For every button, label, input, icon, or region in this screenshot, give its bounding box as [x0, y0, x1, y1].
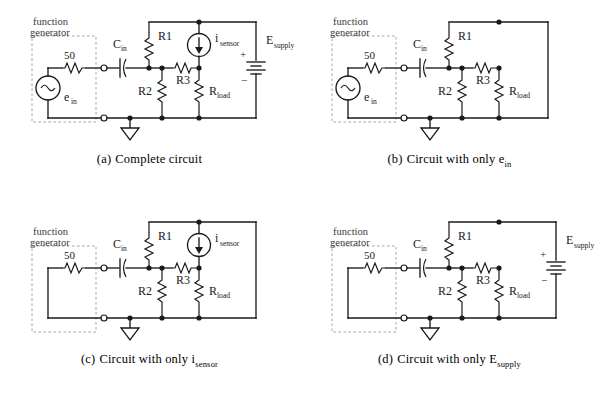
cin-label-sub: in — [421, 44, 427, 53]
r2-resistor-symbol — [458, 268, 466, 318]
r3-resistor-symbol — [472, 263, 499, 273]
panel-c-caption: (c)Circuit with only isensor — [0, 352, 299, 367]
source-resistance-50-symbol — [62, 63, 86, 73]
r1-resistor-symbol — [145, 222, 153, 268]
panel-d-caption: (d)Circuit with only Esupply — [300, 352, 599, 367]
panel-b-caption-sub: in — [505, 159, 512, 169]
isensor-label: i — [215, 231, 219, 245]
panel-c-caption-sub: sensor — [195, 359, 218, 369]
node-r2-bottom — [159, 315, 164, 320]
cin-label-sub: in — [121, 44, 127, 53]
r2-resistor-symbol — [158, 68, 166, 118]
r2-resistor-symbol — [158, 268, 166, 318]
source-resistance-50-label: 50 — [364, 49, 376, 61]
function-generator-label-line1: function — [333, 16, 369, 27]
node-r2-bottom — [459, 115, 464, 120]
isensor-label-sub: sensor — [220, 239, 240, 248]
esupply-minus-sign: − — [241, 74, 247, 86]
circuit-figure: function generator e in 50 — [0, 0, 599, 402]
isensor-label-sub: sensor — [220, 39, 240, 48]
panel-d-only-esupply: function generator 50 C in R1 — [300, 200, 599, 401]
panel-a-caption-text: Complete circuit — [115, 152, 202, 166]
cin-label: C — [413, 37, 421, 51]
fg-output-terminal-top — [401, 65, 407, 71]
r1-label: R1 — [458, 29, 472, 43]
esupply-label-sub: supply — [274, 41, 294, 50]
rload-label: R — [509, 84, 517, 98]
r2-label: R2 — [138, 284, 152, 298]
fg-output-terminal-bottom — [101, 315, 107, 321]
r3-label: R3 — [476, 73, 490, 87]
function-generator-label-line2: generator — [30, 27, 70, 38]
source-resistance-50-symbol — [362, 63, 386, 73]
rload-label-sub: load — [217, 91, 230, 100]
ground-symbol-triangle — [121, 128, 139, 140]
function-generator-label-line2: generator — [30, 237, 70, 248]
rload-resistor-symbol — [495, 268, 503, 318]
esupply-label: E — [266, 33, 273, 47]
fg-output-terminal-top — [101, 265, 107, 271]
isensor-label: i — [215, 31, 219, 45]
ground-symbol-triangle — [121, 328, 139, 340]
r3-label: R3 — [176, 73, 190, 87]
function-generator-label-line2: generator — [330, 237, 370, 248]
r1-label: R1 — [158, 229, 172, 243]
panel-d-caption-sub: supply — [497, 359, 521, 369]
fg-output-terminal-top — [101, 65, 107, 71]
cin-label: C — [413, 237, 421, 251]
panel-a-complete-circuit: function generator e in 50 — [0, 0, 299, 201]
source-resistance-50-label: 50 — [64, 249, 76, 261]
r3-label: R3 — [176, 273, 190, 287]
cin-label-sub: in — [421, 244, 427, 253]
panel-c-schematic: function generator 50 C in R1 — [0, 200, 299, 360]
ein-label-sub: in — [371, 97, 377, 106]
r1-resistor-symbol — [145, 22, 153, 68]
cin-label-sub: in — [121, 244, 127, 253]
node-rload-bottom — [496, 115, 501, 120]
source-resistance-50-label: 50 — [64, 49, 76, 61]
esupply-plus-sign: + — [240, 48, 246, 60]
r1-resistor-symbol — [445, 222, 453, 268]
r3-resistor-symbol — [172, 63, 199, 73]
rload-resistor-symbol — [195, 68, 203, 118]
esupply-plus-sign: + — [540, 248, 546, 260]
panel-b-index: (b) — [387, 152, 402, 166]
panel-a-caption: (a)Complete circuit — [0, 152, 299, 167]
function-generator-label-line2: generator — [330, 27, 370, 38]
panel-b-only-ein: function generator e in 50 C in R1 — [300, 0, 599, 201]
function-generator-label-line1: function — [33, 16, 69, 27]
panel-b-caption: (b)Circuit with only ein — [300, 152, 599, 167]
rload-label-sub: load — [217, 291, 230, 300]
node-r2-bottom — [159, 115, 164, 120]
rload-label: R — [509, 284, 517, 298]
esupply-label-sub: supply — [574, 241, 594, 250]
function-generator-label-line1: function — [333, 226, 369, 237]
ground-symbol-triangle — [421, 328, 439, 340]
panel-d-caption-text: Circuit with only E — [397, 352, 497, 366]
rload-label-sub: load — [517, 91, 530, 100]
source-resistance-50-label: 50 — [364, 249, 376, 261]
source-resistance-50-symbol — [362, 263, 386, 273]
ein-label: e — [364, 90, 369, 104]
node-rload-bottom — [496, 315, 501, 320]
fg-output-terminal-bottom — [401, 115, 407, 121]
rload-label-sub: load — [517, 291, 530, 300]
r2-label: R2 — [438, 84, 452, 98]
esupply-minus-sign: − — [541, 274, 547, 286]
panel-c-caption-text: Circuit with only i — [99, 352, 195, 366]
r2-label: R2 — [138, 84, 152, 98]
panel-a-schematic: function generator e in 50 — [0, 0, 299, 160]
r2-label: R2 — [438, 284, 452, 298]
r3-resistor-symbol — [172, 263, 199, 273]
panel-d-index: (d) — [378, 352, 393, 366]
node-rload-bottom — [196, 315, 201, 320]
cin-label: C — [113, 237, 121, 251]
source-resistance-50-symbol — [62, 263, 86, 273]
r1-label: R1 — [158, 29, 172, 43]
rload-resistor-symbol — [495, 68, 503, 118]
ein-label-sub: in — [71, 97, 77, 106]
panel-b-caption-text: Circuit with only e — [407, 152, 505, 166]
node-r2-bottom — [459, 315, 464, 320]
ein-label: e — [64, 90, 69, 104]
node-rload-bottom — [196, 115, 201, 120]
